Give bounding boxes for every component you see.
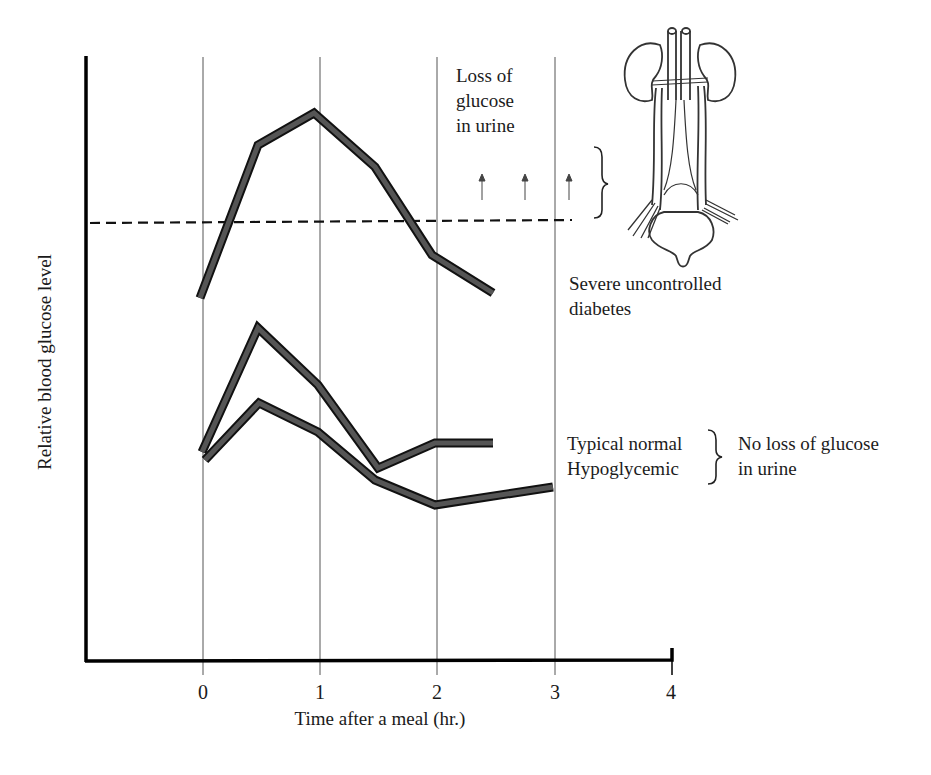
loss-label-line2: glucose: [456, 89, 514, 112]
axes: [85, 56, 672, 675]
legend-bracket: [708, 430, 722, 484]
curve-severe-diabetes: [200, 113, 493, 298]
severe-diabetes-label-line2: diabetes: [569, 297, 631, 320]
x-axis: [85, 648, 672, 661]
x-tick-2: 2: [432, 681, 442, 704]
hypoglycemic-label: Hypoglycemic: [567, 457, 679, 480]
loss-label-line3: in urine: [456, 114, 515, 137]
curve-hypoglycemic: [205, 403, 553, 505]
urinary-system-illustration: [625, 28, 738, 267]
renal-threshold-line: [90, 220, 572, 223]
y-axis-label: Relative blood glucose level: [34, 254, 56, 470]
up-arrow-icons: [479, 174, 572, 200]
typical-normal-label: Typical normal: [567, 432, 682, 455]
loss-label-line1: Loss of: [456, 64, 512, 87]
x-tick-0: 0: [198, 681, 208, 704]
no-loss-label-line2: in urine: [738, 457, 797, 480]
no-loss-label-line1: No loss of glucose: [738, 432, 879, 455]
x-axis-label: Time after a meal (hr.): [295, 708, 466, 730]
loss-bracket: [594, 147, 608, 218]
severe-diabetes-label-line1: Severe uncontrolled: [569, 272, 721, 295]
curve-typical-normal: [202, 328, 493, 468]
x-tick-3: 3: [550, 681, 560, 704]
x-tick-1: 1: [315, 681, 325, 704]
x-tick-4: 4: [666, 681, 676, 704]
